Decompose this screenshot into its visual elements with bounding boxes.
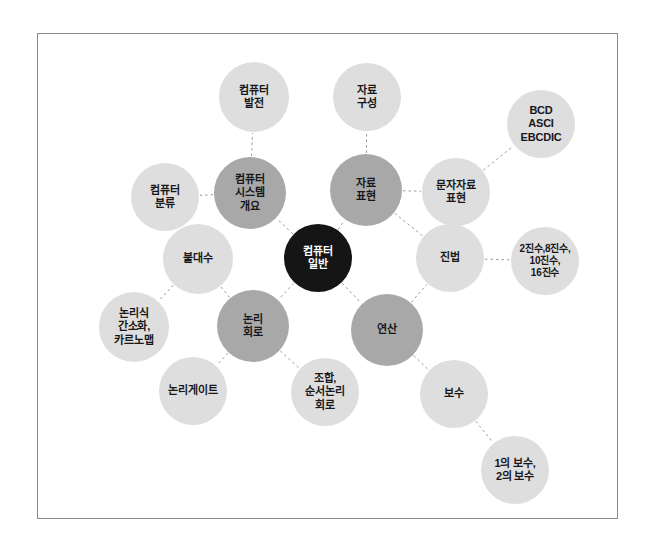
node-label-comp-class: 컴퓨터 분류 bbox=[147, 184, 182, 211]
node-label-simplify: 논리식 간소화, 카르노맵 bbox=[111, 307, 156, 347]
node-data-struct[interactable]: 자료 구성 bbox=[333, 63, 401, 131]
node-label-radix-kinds: 2진수,8진수, 10진수, 16진수 bbox=[516, 243, 573, 280]
node-logic-circuit[interactable]: 논리 회로 bbox=[217, 290, 289, 362]
node-operation[interactable]: 연산 bbox=[351, 294, 423, 366]
node-comb-seq[interactable]: 조합, 순서논리 회로 bbox=[291, 358, 359, 426]
node-char-repr[interactable]: 문자자료 표현 bbox=[422, 158, 490, 226]
node-complement[interactable]: 보수 bbox=[420, 360, 488, 428]
node-radix-kinds[interactable]: 2진수,8진수, 10진수, 16진수 bbox=[511, 227, 579, 295]
node-label-data-repr: 자료 표현 bbox=[353, 177, 379, 204]
node-complement12[interactable]: 1의 보수, 2의 보수 bbox=[481, 436, 549, 504]
node-simplify[interactable]: 논리식 간소화, 카르노맵 bbox=[99, 292, 169, 362]
node-label-sys-overview: 컴퓨터 시스템 개요 bbox=[232, 173, 267, 213]
node-label-radix: 진법 bbox=[437, 251, 463, 264]
node-sys-overview[interactable]: 컴퓨터 시스템 개요 bbox=[214, 157, 286, 229]
node-label-logic-circuit: 논리 회로 bbox=[240, 313, 266, 340]
node-label-complement: 보수 bbox=[441, 387, 467, 400]
node-label-operation: 연산 bbox=[374, 323, 400, 336]
node-label-bool-algebra: 불대수 bbox=[180, 252, 215, 265]
node-comp-dev[interactable]: 컴퓨터 발전 bbox=[219, 62, 289, 132]
node-center[interactable]: 컴퓨터 일반 bbox=[284, 224, 352, 292]
node-label-comb-seq: 조합, 순서논리 회로 bbox=[302, 372, 347, 412]
mindmap-canvas: 컴퓨터 일반컴퓨터 시스템 개요자료 표현논리 회로연산컴퓨터 발전자료 구성컴… bbox=[0, 0, 649, 548]
node-comp-class[interactable]: 컴퓨터 분류 bbox=[131, 163, 199, 231]
node-radix[interactable]: 진법 bbox=[416, 224, 484, 292]
node-label-codes: BCD ASCI EBCDIC bbox=[518, 104, 565, 144]
node-logic-gate[interactable]: 논리게이트 bbox=[159, 357, 227, 425]
node-codes[interactable]: BCD ASCI EBCDIC bbox=[507, 90, 575, 158]
node-label-char-repr: 문자자료 표현 bbox=[433, 179, 478, 206]
node-label-complement12: 1의 보수, 2의 보수 bbox=[491, 457, 538, 484]
node-label-comp-dev: 컴퓨터 발전 bbox=[236, 84, 271, 111]
node-label-data-struct: 자료 구성 bbox=[354, 84, 380, 111]
node-bool-algebra[interactable]: 불대수 bbox=[163, 224, 233, 294]
node-label-logic-gate: 논리게이트 bbox=[165, 384, 220, 397]
node-label-center: 컴퓨터 일반 bbox=[300, 245, 335, 272]
node-data-repr[interactable]: 자료 표현 bbox=[330, 154, 402, 226]
